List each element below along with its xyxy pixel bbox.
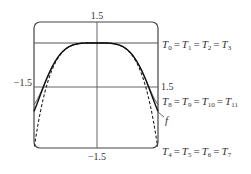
tick-label-right: 1.5	[161, 81, 174, 92]
tick-label-top: 1.5	[91, 10, 104, 21]
label-t8-t11: T8=T9=T10=T11	[162, 95, 238, 109]
series-t4-dashed-curve	[34, 43, 157, 147]
series-t8-curve	[34, 43, 158, 104]
tick-label-left: −1.5	[14, 77, 32, 88]
tick-label-bottom: −1.5	[88, 151, 106, 162]
label-f: f	[165, 114, 170, 126]
series-f-curve	[34, 43, 158, 111]
taylor-polynomial-chart: 1.5 −1.5 −1.5 1.5 T0=T1=T2=T3 T8=T9=T10=…	[0, 0, 251, 174]
plot-frame	[34, 22, 158, 148]
label-t0-t3: T0=T1=T2=T3	[162, 38, 232, 52]
f-leader-line	[158, 112, 164, 117]
label-t4-t7: T4=T5=T6=T7	[162, 145, 232, 159]
